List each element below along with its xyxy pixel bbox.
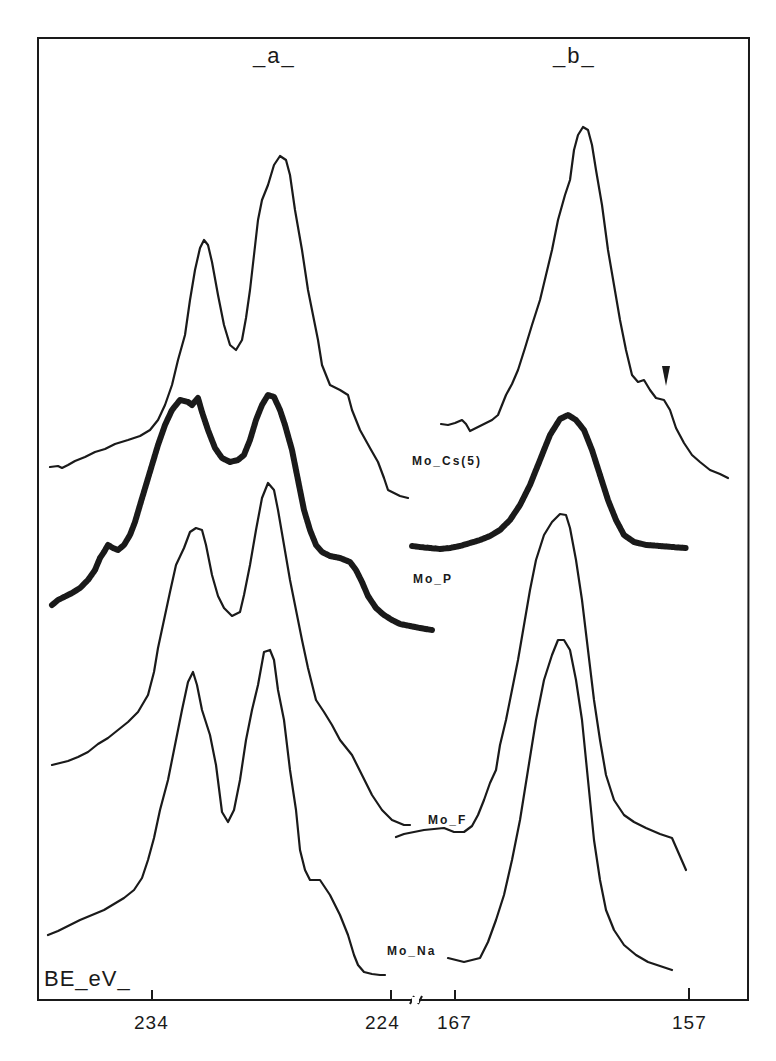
tick-label-157: 157	[672, 1012, 707, 1034]
axis-break-gap	[412, 997, 419, 1003]
trace-b-mo-cs	[441, 127, 728, 478]
trace-a-mo-p	[52, 395, 432, 630]
arrow-marker-icon	[662, 366, 670, 386]
trace-a-mo-na	[48, 650, 385, 975]
plot-frame	[38, 38, 749, 1000]
trace-label-mo-na: Mo_Na	[387, 944, 436, 958]
panel-label-a: _a_	[253, 43, 296, 69]
tick-label-224: 224	[365, 1012, 400, 1034]
tick-label-167: 167	[437, 1012, 472, 1034]
x-axis-ticks	[152, 988, 689, 1004]
trace-label-mo-cs: Mo_Cs(5)	[412, 454, 482, 468]
panel-b-traces	[396, 127, 728, 970]
trace-a-mo-cs	[50, 156, 408, 498]
trace-a-mo-f	[52, 483, 410, 825]
panel-label-b: _b_	[553, 43, 596, 69]
trace-label-mo-f: Mo_F	[428, 813, 467, 827]
xps-figure	[0, 0, 776, 1061]
x-axis-title: BE_eV_	[44, 966, 131, 992]
panel-a-traces	[48, 156, 432, 975]
tick-label-234: 234	[134, 1012, 169, 1034]
trace-label-mo-p: Mo_P	[413, 572, 453, 586]
